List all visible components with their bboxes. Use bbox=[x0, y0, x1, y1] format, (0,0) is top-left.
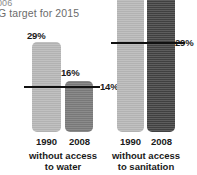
bar-water-2008 bbox=[65, 81, 93, 132]
value-label-water-1990: 29% bbox=[27, 30, 45, 41]
caption-line-2: G target for 2015 bbox=[0, 8, 79, 18]
target-line-water bbox=[24, 86, 100, 88]
target-line-sanitation bbox=[111, 42, 185, 44]
year-label-sanitation-2008: 2008 bbox=[142, 136, 181, 147]
target-label-water: 14% bbox=[100, 81, 118, 92]
group-label-sanitation-line1: without access bbox=[91, 150, 197, 162]
value-label-water-2008: 16% bbox=[61, 67, 79, 78]
target-label-sanitation: 29% bbox=[175, 37, 193, 48]
bar-sanitation-1990 bbox=[117, 0, 144, 132]
group-label-sanitation-line2: to sanitation bbox=[91, 161, 197, 173]
bar-sanitation-2008 bbox=[147, 0, 175, 132]
year-label-water-2008: 2008 bbox=[60, 136, 99, 147]
chart-container: 006 G target for 2015 29% 16% 14% 1990 2… bbox=[0, 0, 197, 175]
